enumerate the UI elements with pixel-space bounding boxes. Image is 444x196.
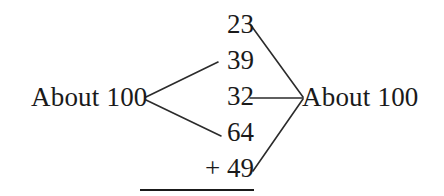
edge-49-to-right (253, 99, 303, 171)
addend-row: 23 (140, 6, 254, 42)
estimation-diagram: About 100 23 39 32 64 + 49 About 100 (0, 0, 444, 196)
addend-row: 32 (140, 78, 254, 114)
addend-row: 39 (140, 42, 254, 78)
right-estimate-label: About 100 (302, 84, 419, 111)
addend-row: 64 (140, 114, 254, 150)
addend-row-final: + 49 (140, 150, 254, 191)
edge-23-to-right (250, 24, 303, 97)
left-estimate-label: About 100 (31, 84, 148, 111)
addend-column: 23 39 32 64 + 49 (140, 6, 254, 191)
